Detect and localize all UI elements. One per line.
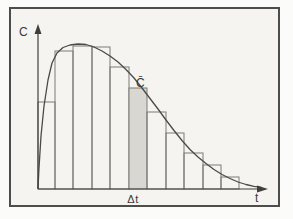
histogram-bar (166, 133, 184, 189)
histogram-bar (147, 112, 166, 189)
concentration-curve (38, 44, 261, 188)
shaded-interval-bar (129, 88, 147, 189)
histogram-bar (110, 67, 129, 189)
y-axis-arrowhead-icon (35, 24, 42, 34)
x-axis-label: t (255, 192, 259, 204)
histogram-bar (73, 46, 92, 189)
histogram-bar (92, 47, 110, 189)
figure: C t Δt C̄ (0, 0, 293, 219)
y-axis-label: C (19, 26, 28, 38)
plot-canvas (0, 0, 293, 219)
mean-concentration-label: C̄ (136, 77, 145, 89)
histogram-bar (55, 51, 73, 189)
delta-t-interval-label: Δt (118, 194, 148, 205)
